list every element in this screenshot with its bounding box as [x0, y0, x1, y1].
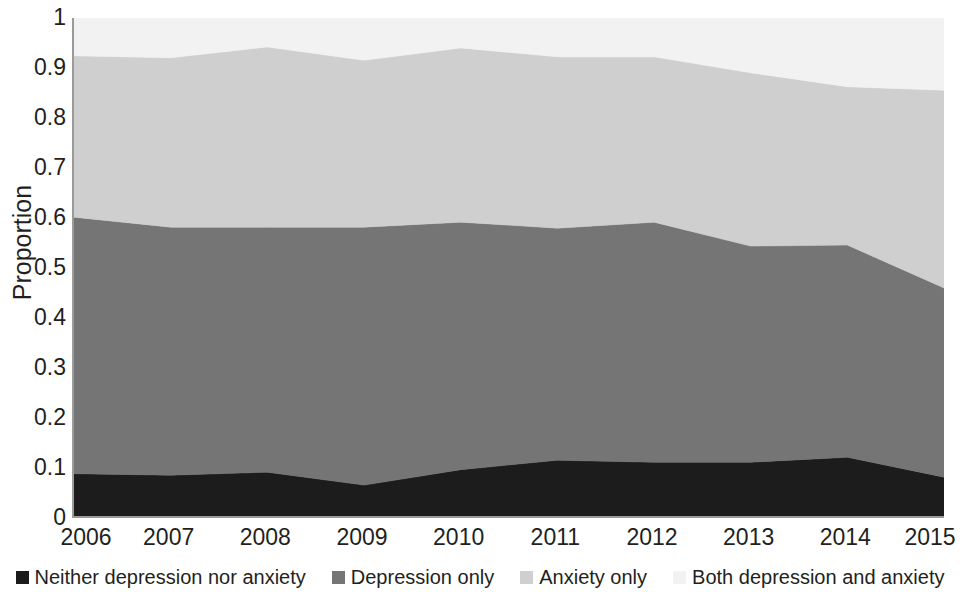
- x-axis-tick-label: 2013: [704, 524, 794, 550]
- x-axis-tick-label: 2008: [220, 524, 310, 550]
- y-axis-tick-labels: 10.90.80.70.60.50.40.30.20.10: [0, 0, 66, 540]
- x-axis-tick-label: 2009: [317, 524, 407, 550]
- y-axis-tick-label: 1: [4, 6, 66, 29]
- y-axis-tick-label: 0.1: [4, 456, 66, 479]
- legend-item[interactable]: Neither depression nor anxiety: [16, 566, 306, 588]
- legend-item[interactable]: Both depression and anxiety: [673, 566, 944, 588]
- x-axis-tick-label: 2012: [607, 524, 697, 550]
- y-axis-tick-label: 0.7: [4, 156, 66, 179]
- legend-item[interactable]: Anxiety only: [520, 566, 647, 588]
- legend-swatch-icon: [520, 571, 533, 584]
- y-axis-tick-label: 0.2: [4, 406, 66, 429]
- y-axis-tick-label: 0.8: [4, 106, 66, 129]
- x-axis-tick-labels: 2006200720082009201020112012201320142015: [72, 524, 944, 554]
- y-axis-tick-label: 0.9: [4, 56, 66, 79]
- x-axis-tick-label: 2010: [414, 524, 504, 550]
- y-axis-tick-label: 0.3: [4, 356, 66, 379]
- area-band-1: [74, 217, 944, 485]
- x-axis-tick-label: 2014: [800, 524, 890, 550]
- x-axis-tick-label: 2006: [41, 524, 131, 550]
- legend-item-label: Neither depression nor anxiety: [35, 566, 306, 588]
- stacked-area-chart: Proportion 10.90.80.70.60.50.40.30.20.10…: [0, 0, 960, 600]
- legend-swatch-icon: [16, 571, 29, 584]
- legend-swatch-icon: [332, 571, 345, 584]
- x-axis-tick-label: 2011: [510, 524, 600, 550]
- legend-item-label: Depression only: [351, 566, 494, 588]
- x-axis-tick-label: 2015: [885, 524, 960, 550]
- legend-item-label: Both depression and anxiety: [692, 566, 944, 588]
- legend-item-label: Anxiety only: [539, 566, 647, 588]
- plot-area: [72, 18, 944, 518]
- y-axis-tick-label: 0.5: [4, 256, 66, 279]
- x-axis-tick-label: 2007: [124, 524, 214, 550]
- y-axis-tick-label: 0.6: [4, 206, 66, 229]
- legend-item[interactable]: Depression only: [332, 566, 494, 588]
- legend-swatch-icon: [673, 571, 686, 584]
- chart-legend: Neither depression nor anxietyDepression…: [0, 562, 960, 592]
- y-axis-tick-label: 0.4: [4, 306, 66, 329]
- plot-svg: [74, 18, 944, 516]
